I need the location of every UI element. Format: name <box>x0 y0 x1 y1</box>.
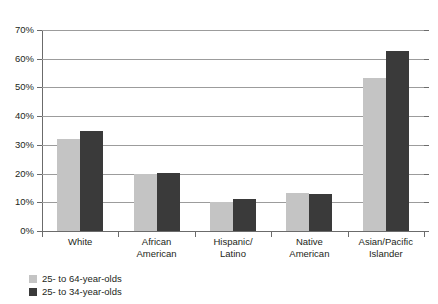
y-axis-tick-right <box>424 59 429 60</box>
y-axis-label: 20% <box>0 169 34 178</box>
x-axis-label-line: Hispanic/ <box>195 236 271 248</box>
x-axis-label-line: White <box>42 236 118 248</box>
bar <box>80 131 103 232</box>
x-axis-label-line: Asian/Pacific <box>348 236 424 248</box>
y-axis-label: 50% <box>0 82 34 91</box>
legend-label: 25- to 34-year-olds <box>42 286 122 297</box>
y-axis-label: 40% <box>0 111 34 120</box>
bar <box>386 51 409 231</box>
chart-legend: 25- to 64-year-olds25- to 34-year-olds <box>29 272 122 298</box>
y-axis-label: 30% <box>0 140 34 149</box>
x-axis-label-line: American <box>118 248 194 260</box>
x-axis-label-line: African <box>118 236 194 248</box>
y-axis-tick-right <box>424 116 429 117</box>
legend-label: 25- to 64-year-olds <box>42 273 122 284</box>
bar <box>233 199 256 231</box>
legend-swatch <box>29 288 37 296</box>
legend-swatch <box>29 275 37 283</box>
bar <box>134 174 157 231</box>
legend-item: 25- to 34-year-olds <box>29 285 122 298</box>
gridline <box>42 231 424 232</box>
y-axis-label: 70% <box>0 25 34 34</box>
y-axis-tick-right <box>424 145 429 146</box>
y-axis-tick-right <box>424 174 429 175</box>
bar <box>286 193 309 231</box>
bar <box>309 194 332 231</box>
x-axis-label: Hispanic/Latino <box>195 236 271 259</box>
x-axis-label-line: Islander <box>348 248 424 260</box>
y-axis-tick-right <box>424 30 429 31</box>
y-axis-label: 0% <box>0 226 34 235</box>
bar <box>363 78 386 231</box>
y-axis-label: 10% <box>0 197 34 206</box>
x-axis-label-line: Latino <box>195 248 271 260</box>
y-axis-tick-right <box>424 87 429 88</box>
bar <box>210 202 233 231</box>
bar-chart: 0%10%20%30%40%50%60%70% WhiteAfricanAmer… <box>0 0 438 304</box>
x-axis-label: AfricanAmerican <box>118 236 194 259</box>
axis-end-tick <box>424 231 425 237</box>
bar <box>57 139 80 231</box>
x-axis-label-line: Native <box>271 236 347 248</box>
x-axis-label: Asian/PacificIslander <box>348 236 424 259</box>
x-axis-label-line: American <box>271 248 347 260</box>
plot-area <box>42 30 424 231</box>
x-axis-label: White <box>42 236 118 248</box>
bar <box>157 173 180 231</box>
x-axis-label: NativeAmerican <box>271 236 347 259</box>
y-axis-tick-right <box>424 202 429 203</box>
legend-item: 25- to 64-year-olds <box>29 272 122 285</box>
y-axis-label: 60% <box>0 54 34 63</box>
